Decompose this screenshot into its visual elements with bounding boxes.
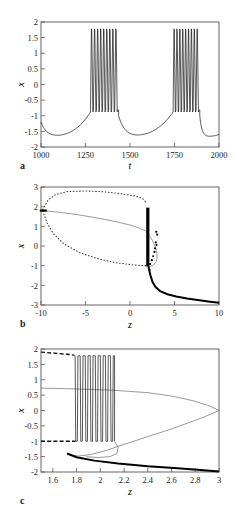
- panel-a-ylabel: x: [15, 82, 26, 88]
- panel-b-ytick-1: -2: [31, 281, 38, 291]
- panel-a-x-ticks: [41, 143, 219, 147]
- panel-c-xtick-0: 1.6: [48, 475, 59, 485]
- panel-b-ytick-3: 0: [34, 241, 38, 251]
- panel-a-xtick-4: 2000: [211, 150, 228, 160]
- panel-b: 3 2 1 0 -1 -2 -3 -10 -5 0 5 10 z x b: [0, 170, 237, 335]
- panel-a-xlabel: t: [129, 160, 132, 170]
- panel-a-ytick-2: -1: [31, 111, 38, 121]
- panel-c-xtick-4: 2.4: [142, 475, 153, 485]
- panel-a: 2 1.5 1 0.5 0 -0.5 -1 -1.5 -2 1000 1250 …: [0, 0, 237, 170]
- panel-a-ytick-4: 0: [34, 80, 38, 90]
- panel-c: 2 1.5 1 0.5 0 -0.5 -1 -1.5 -2 1.6 1.8 2 …: [0, 335, 237, 508]
- panel-b-ylabel: x: [15, 243, 26, 249]
- panel-b-y-ticks: [41, 187, 45, 305]
- panel-b-xlabel: z: [127, 319, 132, 330]
- panel-c-xtick-2: 2: [98, 475, 102, 485]
- panel-c-xtick-1: 1.8: [71, 475, 82, 485]
- panel-b-xtick-4: 10: [215, 308, 224, 318]
- panel-a-ytick-3: -0.5: [25, 95, 38, 105]
- panel-letter-c: c: [20, 495, 24, 506]
- panel-a-xtick-2: 1500: [122, 150, 139, 160]
- panel-c-xtick-6: 2.8: [190, 475, 201, 485]
- panel-c-ytick-1: -1.5: [25, 452, 38, 462]
- panel-b-xtick-2: 0: [128, 308, 132, 318]
- panel-b-spiking-band: [146, 208, 149, 267]
- panel-c-ytick-0: -2: [31, 467, 38, 477]
- panel-letter-b: b: [20, 318, 26, 329]
- panel-b-ytick-6: 3: [34, 182, 38, 192]
- panel-b-xtick-1: -5: [82, 308, 89, 318]
- panel-c-xlabel: z: [127, 486, 132, 497]
- panel-c-series: [41, 352, 219, 471]
- panel-c-ytick-5: 0.5: [27, 390, 38, 400]
- panel-c-ytick-8: 2: [34, 344, 38, 354]
- panel-c-xtick-3: 2.2: [119, 475, 130, 485]
- panel-c-plot: 2 1.5 1 0.5 0 -0.5 -1 -1.5 -2 1.6 1.8 2 …: [0, 335, 237, 508]
- panel-c-ytick-3: -0.5: [25, 421, 38, 431]
- panel-b-trajectory-marker: [40, 211, 158, 271]
- panel-c-ytick-2: -1: [31, 437, 38, 447]
- panel-b-x-ticks: [41, 301, 219, 305]
- panel-a-xtick-3: 1750: [166, 150, 183, 160]
- panel-c-ytick-6: 1: [34, 375, 38, 385]
- panel-b-ytick-5: 2: [34, 202, 38, 212]
- panel-a-series: [41, 29, 219, 136]
- panel-a-ytick-7: 1.5: [27, 33, 38, 43]
- panel-a-xtick-1: 1250: [77, 150, 94, 160]
- panel-b-series: [40, 191, 219, 303]
- panel-c-ytick-7: 1.5: [27, 360, 38, 370]
- panel-b-xtick-0: -10: [35, 308, 46, 318]
- panel-c-xtick-7: 3: [217, 475, 221, 485]
- panel-b-ytick-4: 1: [34, 222, 38, 232]
- panel-b-xtick-3: 5: [172, 308, 176, 318]
- panel-c-ytick-4: 0: [34, 406, 38, 416]
- panel-a-xtick-0: 1000: [33, 150, 50, 160]
- panel-b-plot: 3 2 1 0 -1 -2 -3 -10 -5 0 5 10 z x: [0, 170, 237, 335]
- panel-c-y-ticks: [41, 349, 45, 472]
- panel-a-ytick-1: -1.5: [25, 127, 38, 137]
- panel-b-ytick-2: -1: [31, 261, 38, 271]
- panel-a-ytick-8: 2: [34, 17, 38, 27]
- panel-c-xtick-5: 2.6: [166, 475, 177, 485]
- panel-b-frame: [41, 187, 219, 305]
- panel-c-ylabel: x: [15, 408, 26, 414]
- panel-a-ytick-5: 0.5: [27, 64, 38, 74]
- panel-a-plot: 2 1.5 1 0.5 0 -0.5 -1 -1.5 -2 1000 1250 …: [0, 0, 237, 170]
- panel-a-ytick-6: 1: [34, 48, 38, 58]
